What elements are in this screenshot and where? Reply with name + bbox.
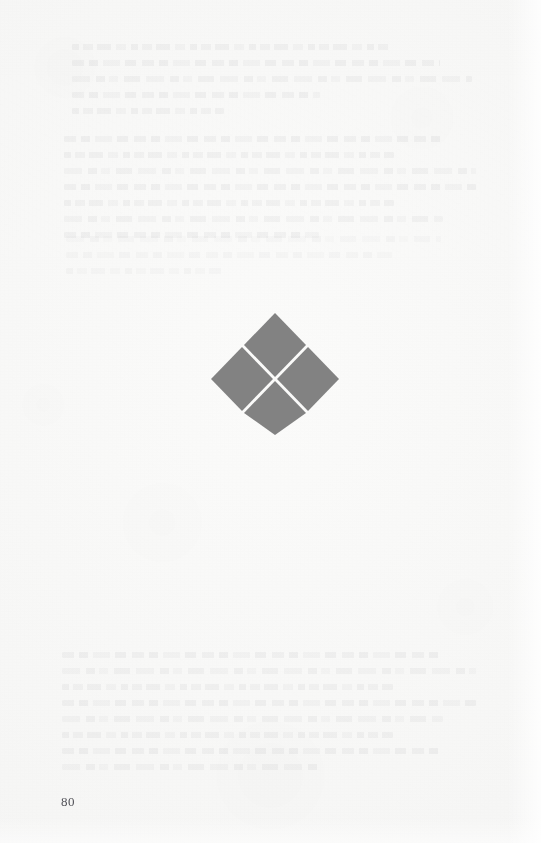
showthrough-line [66,268,221,274]
showthrough-line [62,732,393,738]
showthrough-line [66,236,441,242]
showthrough-line [64,152,394,158]
showthrough-line [64,184,476,190]
page-number: 80 [61,795,75,808]
showthrough-line [62,716,443,722]
ornament-diamonds [211,313,339,435]
four-diamond-ornament [210,311,340,437]
showthrough-line [62,700,476,706]
showthrough-line [62,684,393,690]
showthrough-line [62,652,443,658]
showthrough-block-tail [66,236,474,284]
four-diamond-ornament-svg [210,311,340,437]
showthrough-block-middle [64,136,476,248]
showthrough-line [72,76,472,82]
showthrough-line [72,92,320,98]
showthrough-line [62,668,476,674]
showthrough-line [62,764,319,770]
showthrough-line [64,232,319,238]
showthrough-block-top [72,44,472,124]
showthrough-line [62,748,443,754]
showthrough-line [64,136,443,142]
showthrough-line [72,44,392,50]
showthrough-line [64,200,394,206]
showthrough-line [64,168,476,174]
showthrough-line [72,60,440,66]
showthrough-line [64,216,443,222]
showthrough-line [66,252,392,258]
scanned-page: 80 [0,0,541,843]
showthrough-block-bottom [62,652,476,780]
showthrough-line [72,108,224,114]
